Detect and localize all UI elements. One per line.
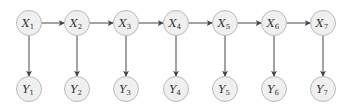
observed-node-y4: Y4: [164, 77, 189, 102]
observed-node-y6: Y6: [262, 77, 287, 102]
hidden-node-x3: X3: [114, 11, 139, 36]
observed-node-y1: Y1: [17, 77, 42, 102]
observed-node-y7: Y7: [311, 77, 336, 102]
observed-node-y2: Y2: [65, 77, 90, 102]
hidden-node-x4: X4: [164, 11, 189, 36]
observed-node-y3: Y3: [114, 77, 139, 102]
hidden-node-x7: X7: [311, 11, 336, 36]
hidden-node-x2: X2: [65, 11, 90, 36]
hidden-node-x5: X5: [213, 11, 238, 36]
hmm-diagram: X1X2X3X4X5X6X7Y1Y2Y3Y4Y5Y6Y7: [0, 0, 353, 110]
hidden-node-x6: X6: [262, 11, 287, 36]
hidden-node-x1: X1: [17, 11, 42, 36]
observed-node-y5: Y5: [213, 77, 238, 102]
